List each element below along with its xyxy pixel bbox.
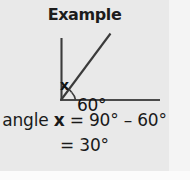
known-angle-arc: [72, 92, 76, 100]
equation-prefix: angle: [2, 110, 53, 130]
card-right-edge: [169, 0, 190, 180]
angle-diagram: x 60°: [0, 24, 169, 108]
example-angle-figure: Example x 60° angle x = 90° – 60° = 30°: [0, 0, 190, 180]
equation-line-1: angle x = 90° – 60°: [0, 108, 169, 133]
equation-variable: x: [54, 110, 65, 130]
equation-line-2: = 30°: [0, 133, 169, 158]
equation-block: angle x = 90° – 60° = 30°: [0, 108, 169, 158]
unknown-angle-label: x: [60, 78, 69, 92]
equation-suffix: = 90° – 60°: [64, 110, 166, 130]
page-title: Example: [0, 5, 169, 25]
card-bottom-edge: [0, 171, 190, 180]
